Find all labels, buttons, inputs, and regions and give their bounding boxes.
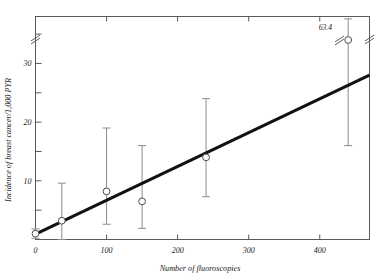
error-bar <box>103 128 111 224</box>
y-axis-tick-labels: 102030 <box>23 59 32 185</box>
data-point-marker <box>32 230 39 237</box>
data-point-marker <box>203 154 210 161</box>
error-bar <box>202 99 210 197</box>
break-mark-errorbar <box>335 36 344 45</box>
x-axis-tick-labels: 0100200300400 <box>34 246 326 255</box>
data-point-marker <box>58 217 65 224</box>
chart-figure: 102030 0100200300400 63.4 Number of fluo… <box>0 0 383 280</box>
data-point-marker <box>345 37 352 44</box>
data-point-marker <box>139 198 146 205</box>
error-bar <box>58 183 66 239</box>
y-axis-title: Incidence of breast cancer/1,000 PYR <box>4 78 13 203</box>
y-tick-label: 20 <box>24 118 32 127</box>
x-tick-label: 100 <box>101 246 113 255</box>
annotation-upper-limit-value: 63.4 <box>319 23 332 32</box>
x-tick-label: 400 <box>314 246 326 255</box>
x-axis-ticks <box>36 17 320 240</box>
y-axis-ticks <box>36 34 42 210</box>
y-axis-break-marks <box>31 35 374 44</box>
y-tick-label: 30 <box>23 59 32 68</box>
x-tick-label: 200 <box>172 246 184 255</box>
plot-frame <box>36 16 371 240</box>
x-tick-label: 300 <box>242 246 255 255</box>
x-tick-label: 0 <box>34 246 38 255</box>
y-tick-label: 10 <box>24 177 32 186</box>
data-point-marker <box>103 188 110 195</box>
error-bar <box>138 146 146 229</box>
scatter-chart-canvas: 102030 0100200300400 63.4 Number of fluo… <box>0 0 383 280</box>
error-bars-group <box>32 19 353 240</box>
x-axis-title: Number of fluoroscopies <box>159 264 241 273</box>
data-point-markers <box>32 37 351 237</box>
